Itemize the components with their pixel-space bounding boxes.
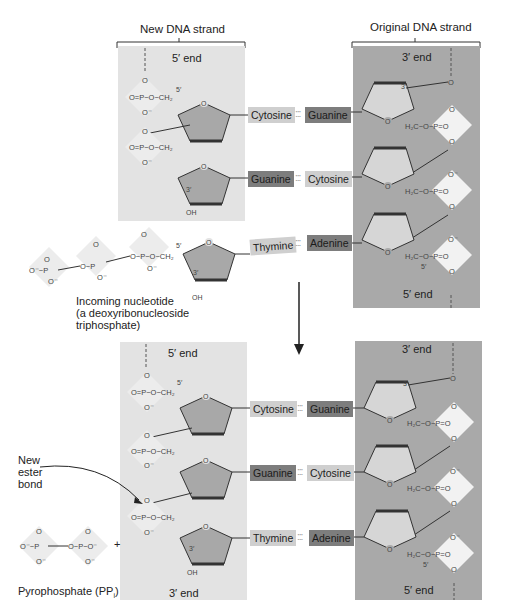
svg-text:O⁻: O⁻ — [85, 557, 95, 566]
svg-text:H₂C−O−P=O: H₂C−O−P=O — [405, 252, 449, 261]
svg-text:O: O — [450, 374, 456, 383]
svg-text:5′: 5′ — [421, 263, 427, 270]
incoming-nucleotide-label-3: triphosphate) — [76, 319, 140, 331]
top-base-right-2: Cytosine — [305, 171, 352, 187]
svg-text:H₂C−O−P=O: H₂C−O−P=O — [407, 484, 451, 493]
new-ester-bond-label-2: ester — [18, 466, 42, 478]
svg-text:O: O — [449, 267, 455, 276]
svg-text:H₂C−O−P=O: H₂C−O−P=O — [405, 187, 449, 196]
svg-text:O−P−O−CH₂: O−P−O−CH₂ — [130, 252, 174, 261]
svg-text:5′: 5′ — [423, 561, 429, 568]
svg-text:3′: 3′ — [193, 269, 199, 276]
svg-text:O: O — [451, 565, 457, 574]
svg-text:O=P−O−CH₂: O=P−O−CH₂ — [129, 93, 173, 102]
svg-text:O: O — [144, 371, 150, 380]
bottom-base-left-2: Guanine — [250, 465, 296, 481]
svg-text:H₂C−O−P=O: H₂C−O−P=O — [405, 122, 449, 131]
svg-text:OH: OH — [187, 569, 198, 576]
svg-text:H₂C−O−P=O: H₂C−O−P=O — [407, 419, 451, 428]
new-ester-bond-label-1: New — [18, 454, 40, 466]
svg-text:3′: 3′ — [403, 380, 409, 387]
svg-text:5′: 5′ — [176, 86, 182, 93]
svg-text:O−P: O−P — [80, 262, 95, 271]
svg-text:O=P−O−CH₂: O=P−O−CH₂ — [131, 447, 175, 456]
svg-text:O⁻: O⁻ — [142, 158, 152, 167]
svg-text:3′: 3′ — [186, 186, 192, 193]
bottom-base-right-1: Guanine — [307, 401, 353, 417]
bottom-base-left-1: Cytosine — [250, 401, 297, 417]
svg-text:O: O — [141, 230, 147, 239]
svg-text:O: O — [93, 240, 99, 249]
pyrophosphate-text: Pyrophosphate (PP — [18, 585, 113, 597]
hbond-icon: ::: — [297, 466, 302, 477]
top-base-right-1: Guanine — [305, 107, 351, 123]
svg-text:O⁻: O⁻ — [144, 403, 154, 412]
incoming-nucleotide-label-2: (a deoxyribonucleoside — [76, 307, 189, 319]
svg-text:3′: 3′ — [401, 83, 407, 90]
svg-text:O: O — [451, 402, 457, 411]
svg-text:H₂C−O−P=O: H₂C−O−P=O — [407, 550, 451, 559]
top-base-left-3: Thymine — [249, 236, 296, 255]
svg-text:O=P−O−CH₂: O=P−O−CH₂ — [129, 143, 173, 152]
svg-text:O: O — [144, 431, 150, 440]
svg-text:OH: OH — [192, 294, 203, 301]
svg-text:O: O — [142, 127, 148, 136]
hbond-icon: ::: — [295, 108, 300, 119]
svg-text:O⁻−P: O⁻−P — [20, 542, 39, 551]
svg-text:3′: 3′ — [189, 545, 195, 552]
top-base-left-1: Cytosine — [248, 107, 295, 123]
svg-text:O: O — [449, 137, 455, 146]
svg-text:O=P−O−CH₂: O=P−O−CH₂ — [131, 513, 175, 522]
pyrophosphate-close: ) — [115, 585, 119, 597]
svg-text:O⁻: O⁻ — [448, 170, 458, 179]
svg-text:O: O — [36, 527, 42, 536]
incoming-nucleotide-label-1: Incoming nucleotide — [76, 295, 174, 307]
svg-text:O⁻: O⁻ — [144, 461, 154, 470]
svg-text:5′: 5′ — [176, 242, 182, 249]
top-base-left-2: Guanine — [248, 171, 294, 187]
svg-text:O−P−O⁻: O−P−O⁻ — [68, 542, 97, 551]
new-ester-bond-label-3: bond — [18, 478, 42, 490]
svg-text:O: O — [449, 105, 455, 114]
bottom-base-right-3: Adenine — [309, 530, 354, 546]
svg-text:O: O — [449, 202, 455, 211]
svg-text:O⁻: O⁻ — [142, 108, 152, 117]
plus-sign: + — [114, 538, 120, 550]
svg-text:O⁻: O⁻ — [448, 235, 458, 244]
svg-text:O⁻: O⁻ — [144, 528, 154, 537]
svg-text:O: O — [142, 76, 148, 85]
svg-text:O⁻: O⁻ — [97, 273, 107, 282]
pyrophosphate-label: Pyrophosphate (PPi) — [18, 585, 119, 599]
svg-text:OH: OH — [186, 209, 197, 216]
svg-text:O⁻: O⁻ — [147, 264, 157, 273]
svg-text:O⁻: O⁻ — [48, 277, 58, 286]
svg-text:O⁻: O⁻ — [450, 533, 460, 542]
svg-text:O=P−O−CH₂: O=P−O−CH₂ — [131, 388, 175, 397]
top-base-right-3: Adenine — [307, 235, 352, 251]
svg-text:O⁻: O⁻ — [36, 557, 46, 566]
svg-text:O: O — [451, 434, 457, 443]
svg-text:O⁻−P: O⁻−P — [29, 266, 48, 275]
hbond-icon: ::: — [297, 531, 302, 542]
hbond-icon: ::: — [295, 237, 300, 248]
bottom-base-left-3: Thymine — [250, 530, 296, 546]
hbond-icon: ::: — [297, 402, 302, 413]
svg-text:O: O — [85, 527, 91, 536]
svg-text:O⁻: O⁻ — [450, 467, 460, 476]
svg-text:O: O — [448, 78, 454, 87]
svg-text:O: O — [451, 499, 457, 508]
svg-text:O: O — [44, 255, 50, 264]
svg-text:O: O — [144, 496, 150, 505]
bottom-base-right-2: Cytosine — [307, 465, 354, 481]
svg-text:5′: 5′ — [177, 379, 183, 386]
hbond-icon: ::: — [295, 172, 300, 183]
